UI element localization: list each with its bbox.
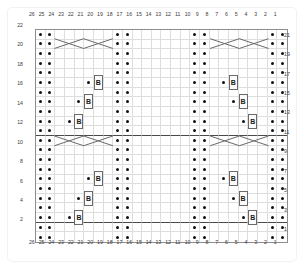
stitch-cell <box>113 88 123 98</box>
stitch-cell <box>181 146 191 156</box>
stitch-cell <box>94 40 104 50</box>
stitch-cell <box>142 88 152 98</box>
chart-grid-area: BBBBBBBBBBBB <box>35 29 288 243</box>
purl-dot-icon <box>48 71 51 74</box>
stitch-grid: BBBBBBBBBBBB <box>35 29 288 243</box>
purl-dot-icon <box>271 139 274 142</box>
stitch-cell <box>75 136 85 146</box>
stitch-cell <box>104 117 114 127</box>
stitch-cell <box>133 136 143 146</box>
stitch-cell <box>229 59 239 69</box>
stitch-cell <box>181 107 191 117</box>
stitch-cell <box>161 223 171 233</box>
stitch-cell <box>142 30 152 40</box>
stitch-cell <box>46 30 56 40</box>
stitch-cell <box>65 146 75 156</box>
purl-dot-icon <box>203 52 206 55</box>
stitch-cell <box>75 30 85 40</box>
stitch-cell <box>258 30 268 40</box>
stitch-cell <box>200 78 210 88</box>
stitch-cell <box>46 146 56 156</box>
stitch-cell <box>55 175 65 185</box>
stitch-cell <box>161 184 171 194</box>
purl-dot-icon <box>126 197 129 200</box>
stitch-cell <box>200 194 210 204</box>
stitch-cell <box>123 203 133 213</box>
purl-dot-icon <box>193 52 196 55</box>
purl-dot-icon <box>271 100 274 103</box>
purl-dot-icon <box>39 197 42 200</box>
stitch-cell <box>55 184 65 194</box>
stitch-cell <box>94 213 104 223</box>
stitch-cell <box>104 165 114 175</box>
purl-dot-icon <box>77 197 80 200</box>
stitch-cell <box>123 30 133 40</box>
stitch-cell <box>200 88 210 98</box>
stitch-cell <box>133 88 143 98</box>
stitch-cell <box>219 223 229 233</box>
stitch-cell <box>152 107 162 117</box>
stitch-cell <box>75 184 85 194</box>
purl-dot-icon <box>203 158 206 161</box>
stitch-cell <box>123 88 133 98</box>
purl-dot-icon <box>116 187 119 190</box>
stitch-cell <box>210 213 220 223</box>
bobble-icon: B <box>248 114 257 129</box>
stitch-cell <box>219 194 229 204</box>
column-label-top: 1 <box>268 12 282 17</box>
stitch-cell <box>210 107 220 117</box>
purl-dot-icon <box>48 129 51 132</box>
stitch-cell <box>75 59 85 69</box>
purl-dot-icon <box>271 81 274 84</box>
stitch-cell <box>94 126 104 136</box>
stitch-cell <box>268 59 278 69</box>
stitch-cell <box>36 194 46 204</box>
stitch-cell <box>258 223 268 233</box>
stitch-cell <box>55 30 65 40</box>
purl-dot-icon <box>126 33 129 36</box>
purl-dot-icon <box>271 129 274 132</box>
purl-dot-icon <box>193 71 196 74</box>
purl-dot-icon <box>126 148 129 151</box>
stitch-cell <box>133 69 143 79</box>
stitch-cell <box>113 175 123 185</box>
stitch-cell <box>113 223 123 233</box>
stitch-cell <box>248 69 258 79</box>
stitch-cell <box>190 49 200 59</box>
row-label-left: 16 <box>12 81 23 86</box>
purl-dot-icon <box>281 216 284 219</box>
stitch-cell <box>161 155 171 165</box>
stitch-cell <box>248 49 258 59</box>
stitch-cell <box>277 40 287 50</box>
stitch-cell <box>210 136 220 146</box>
stitch-cell <box>113 78 123 88</box>
stitch-cell <box>36 49 46 59</box>
stitch-cell <box>161 78 171 88</box>
stitch-cell <box>152 155 162 165</box>
stitch-cell <box>46 88 56 98</box>
stitch-cell <box>46 117 56 127</box>
stitch-cell <box>65 117 75 127</box>
stitch-cell <box>75 88 85 98</box>
row-label-right: 3 <box>284 208 295 213</box>
stitch-cell <box>258 78 268 88</box>
stitch-cell <box>123 97 133 107</box>
purl-dot-icon <box>203 129 206 132</box>
purl-dot-icon <box>116 158 119 161</box>
stitch-cell <box>229 194 239 204</box>
stitch-cell <box>277 213 287 223</box>
purl-dot-icon <box>281 236 284 239</box>
stitch-cell <box>219 69 229 79</box>
purl-dot-icon <box>222 81 225 84</box>
purl-dot-icon <box>126 100 129 103</box>
stitch-cell <box>210 126 220 136</box>
purl-dot-icon <box>242 216 245 219</box>
stitch-cell <box>268 165 278 175</box>
purl-dot-icon <box>48 226 51 229</box>
stitch-cell <box>239 175 249 185</box>
knitting-chart: BBBBBBBBBBBB 262524232221201918171615141… <box>0 0 304 269</box>
stitch-cell <box>142 165 152 175</box>
stitch-cell <box>171 126 181 136</box>
stitch-cell <box>65 126 75 136</box>
stitch-cell <box>268 117 278 127</box>
